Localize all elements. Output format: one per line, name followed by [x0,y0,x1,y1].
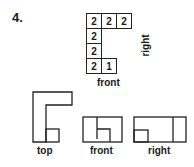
right-view-label: right [148,145,170,156]
front-view-step [97,117,110,142]
top-view-label: top [37,145,53,156]
orthographic-views [0,0,194,167]
front-view-label: front [90,145,113,156]
right-view-inner-square [134,130,148,142]
top-view-outline [33,92,72,142]
top-view-inner-square [46,129,59,142]
